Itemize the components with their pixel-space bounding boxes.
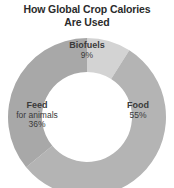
donut-container: Biofuels 9% Food 55% Feed for animals 36… bbox=[0, 0, 174, 188]
slice-label-food: Food 55% bbox=[111, 101, 165, 120]
slice-label-feed: Feed for animals 36% bbox=[4, 101, 70, 130]
slice-label-biofuels: Biofuels 9% bbox=[57, 41, 117, 60]
slice-label-feed-value: 36% bbox=[4, 120, 70, 130]
crop-calories-donut-chart: How Global Crop Calories Are Used Biofue… bbox=[0, 0, 174, 188]
slice-label-biofuels-value: 9% bbox=[57, 51, 117, 61]
donut-svg bbox=[0, 0, 174, 188]
slice-label-food-value: 55% bbox=[111, 111, 165, 121]
